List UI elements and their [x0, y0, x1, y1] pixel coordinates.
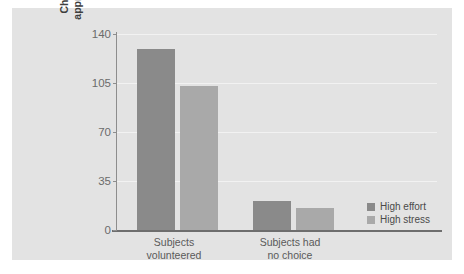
- tick-mark-0: [113, 230, 117, 231]
- y-tick-label-70: 70: [98, 126, 111, 138]
- legend-label-high-effort: High effort: [380, 201, 426, 212]
- y-axis-title-line-1: Change in willingness to: [58, 0, 71, 38]
- y-axis-title-line-2: approach snake (in inches): [71, 0, 84, 38]
- chart-legend: High effort High stress: [367, 200, 430, 226]
- tick-mark-105: [113, 83, 117, 84]
- x-category-label-no-choice: Subjects had no choice: [240, 236, 340, 261]
- y-tick-label-105: 105: [92, 77, 111, 89]
- legend-item-high-effort: High effort: [367, 200, 430, 213]
- tick-mark-35: [113, 181, 117, 182]
- legend-swatch-icon-high-stress: [367, 216, 375, 224]
- y-tick-label-140: 140: [92, 28, 111, 40]
- legend-item-high-stress: High stress: [367, 213, 430, 226]
- legend-label-high-stress: High stress: [380, 214, 430, 225]
- gridline-140: 140: [117, 34, 437, 35]
- chart-figure: Change in willingness to approach snake …: [0, 0, 464, 274]
- tick-mark-140: [113, 34, 117, 35]
- gridline-0: 0: [117, 230, 437, 231]
- bar-no-choice-high-effort: [253, 201, 291, 230]
- chart-panel: Change in willingness to approach snake …: [12, 8, 452, 260]
- y-tick-label-0: 0: [105, 224, 111, 236]
- x-category-label-volunteered: Subjects volunteered: [124, 236, 224, 261]
- y-tick-label-35: 35: [98, 175, 111, 187]
- legend-swatch-icon-high-effort: [367, 203, 375, 211]
- y-axis-title: Change in willingness to approach snake …: [58, 0, 84, 38]
- bar-no-choice-high-stress: [296, 208, 334, 230]
- bar-volunteered-high-stress: [180, 86, 218, 230]
- bar-volunteered-high-effort: [137, 49, 175, 230]
- tick-mark-70: [113, 132, 117, 133]
